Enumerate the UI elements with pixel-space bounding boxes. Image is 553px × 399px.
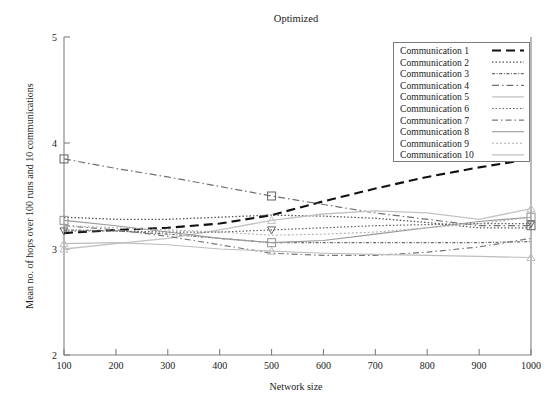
legend-label-5: Communication 5 bbox=[400, 91, 469, 102]
x-axis-ticks: 1002003004005006007008009001000 bbox=[57, 349, 542, 371]
series-line-10 bbox=[64, 243, 531, 258]
x-tick-label: 900 bbox=[472, 360, 487, 371]
y-axis-label: Mean no. of hops over 100 runs and 10 co… bbox=[24, 83, 35, 309]
x-tick-label: 600 bbox=[316, 360, 331, 371]
legend-label-4: Communication 4 bbox=[400, 80, 469, 91]
y-tick-label: 4 bbox=[52, 138, 57, 149]
series-line-1 bbox=[64, 159, 531, 233]
y-tick-label: 5 bbox=[52, 32, 57, 43]
line-chart: Optimized 2345 1002003004005006007008009… bbox=[0, 0, 553, 399]
chart-title: Optimized bbox=[274, 13, 319, 24]
x-tick-label: 800 bbox=[420, 360, 435, 371]
legend-label-7: Communication 7 bbox=[400, 115, 469, 126]
legend-label-2: Communication 2 bbox=[400, 57, 469, 68]
x-axis-label: Network size bbox=[269, 381, 323, 392]
x-tick-label: 500 bbox=[264, 360, 279, 371]
series-line-4 bbox=[64, 159, 531, 226]
x-tick-label: 100 bbox=[57, 360, 72, 371]
y-tick-label: 3 bbox=[52, 244, 57, 255]
legend-label-10: Communication 10 bbox=[400, 149, 474, 160]
chart-container: Optimized 2345 1002003004005006007008009… bbox=[0, 0, 553, 399]
legend-label-6: Communication 6 bbox=[400, 103, 469, 114]
x-tick-label: 300 bbox=[160, 360, 175, 371]
legend-label-3: Communication 3 bbox=[400, 68, 469, 79]
x-tick-label: 400 bbox=[212, 360, 227, 371]
x-tick-label: 1000 bbox=[521, 360, 541, 371]
legend-label-9: Communication 9 bbox=[400, 138, 469, 149]
y-axis-ticks: 2345 bbox=[52, 32, 70, 361]
legend-label-8: Communication 8 bbox=[400, 126, 469, 137]
series-layer bbox=[64, 159, 531, 258]
x-tick-label: 200 bbox=[108, 360, 123, 371]
legend-label-1: Communication 1 bbox=[400, 45, 469, 56]
x-tick-label: 700 bbox=[368, 360, 383, 371]
